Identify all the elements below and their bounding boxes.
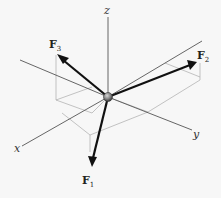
force-diagram: z x y F3 F2 F1 <box>0 0 221 198</box>
particle <box>104 93 113 102</box>
f1-label: F1 <box>82 174 94 189</box>
force-f2 <box>108 60 197 97</box>
z-axis-label: z <box>103 4 110 17</box>
f2-label: F2 <box>197 49 209 64</box>
y-axis-negative <box>20 60 108 97</box>
y-axis-positive <box>108 97 192 130</box>
x-axis <box>22 97 108 146</box>
x-axis-label: x <box>14 142 21 155</box>
arrowhead-icon <box>187 60 197 70</box>
f3-label: F3 <box>49 38 61 53</box>
diagonal-axis <box>108 41 202 97</box>
y-axis-label: y <box>192 128 200 141</box>
arrowhead-icon <box>88 156 97 167</box>
